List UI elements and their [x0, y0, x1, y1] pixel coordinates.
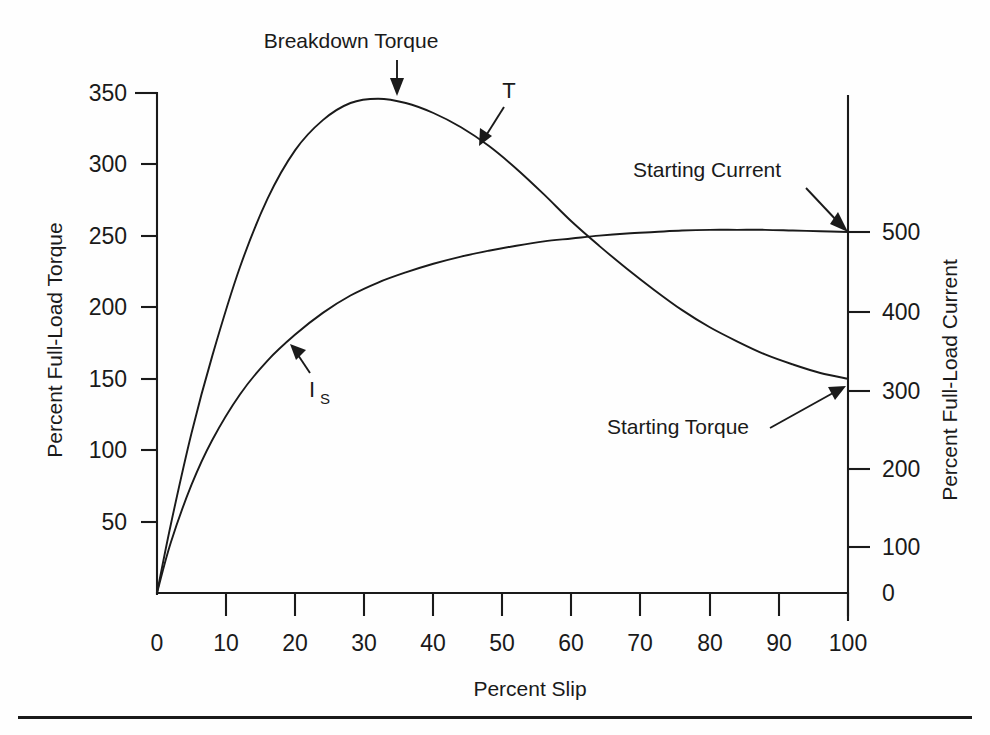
left-tick-label-50: 50 [101, 509, 127, 535]
x-tick-label-70: 70 [627, 630, 653, 656]
annotation-starting-current: Starting Current [633, 158, 848, 232]
current-symbol-arrow-icon [290, 344, 306, 360]
left-tick-label-350: 350 [89, 80, 127, 106]
torque-symbol-leader [487, 107, 504, 134]
right-tick-label-100: 100 [882, 534, 920, 560]
figure-root: 350 300 250 200 150 100 50 Percent Full-… [0, 0, 990, 735]
motor-torque-current-chart: 350 300 250 200 150 100 50 Percent Full-… [0, 0, 990, 735]
x-tick-label-50: 50 [489, 630, 515, 656]
x-tick-label-20: 20 [282, 630, 308, 656]
right-tick-label-500: 500 [882, 219, 920, 245]
x-axis: 0 10 20 30 40 50 60 70 80 90 100 Percent… [151, 593, 868, 700]
right-tick-label-200: 200 [882, 456, 920, 482]
starting-torque-label: Starting Torque [607, 415, 749, 438]
right-tick-label-300: 300 [882, 378, 920, 404]
right-y-axis: 500 400 300 200 100 0 Percent Full-Load … [848, 96, 961, 620]
starting-current-leader [806, 188, 838, 222]
breakdown-torque-arrow-icon [390, 78, 404, 96]
annotation-current-symbol: I S [290, 344, 330, 407]
torque-symbol-label: T [502, 78, 515, 103]
x-tick-label-80: 80 [697, 630, 723, 656]
current-symbol-label: I [309, 377, 315, 402]
current-symbol-subscript: S [320, 390, 330, 407]
x-tick-label-0: 0 [151, 630, 164, 656]
left-tick-label-300: 300 [89, 151, 127, 177]
left-tick-label-250: 250 [89, 223, 127, 249]
left-y-axis: 350 300 250 200 150 100 50 Percent Full-… [43, 80, 157, 594]
x-tick-label-100: 100 [829, 630, 867, 656]
starting-torque-leader [770, 393, 833, 428]
x-tick-label-90: 90 [766, 630, 792, 656]
right-tick-label-400: 400 [882, 299, 920, 325]
x-tick-label-60: 60 [558, 630, 584, 656]
current-symbol-leader [298, 355, 310, 373]
starting-torque-arrow-icon [828, 386, 846, 400]
x-tick-label-40: 40 [420, 630, 446, 656]
x-axis-title: Percent Slip [473, 677, 586, 700]
left-tick-label-150: 150 [89, 366, 127, 392]
caption-divider-rule [18, 716, 972, 719]
annotation-breakdown-torque: Breakdown Torque [264, 29, 439, 96]
starting-current-label: Starting Current [633, 158, 781, 181]
annotation-torque-symbol: T [479, 78, 516, 146]
left-axis-title: Percent Full-Load Torque [43, 222, 66, 457]
x-tick-label-30: 30 [351, 630, 377, 656]
current-curve-plot [157, 230, 848, 593]
left-tick-label-200: 200 [89, 294, 127, 320]
annotation-starting-torque: Starting Torque [607, 386, 846, 438]
right-tick-label-0: 0 [882, 580, 895, 606]
x-tick-label-10: 10 [213, 630, 239, 656]
right-axis-title: Percent Full-Load Current [938, 259, 961, 501]
left-tick-label-100: 100 [89, 437, 127, 463]
breakdown-torque-label: Breakdown Torque [264, 29, 439, 52]
